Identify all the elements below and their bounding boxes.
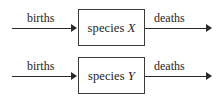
- inflow-label-births-y: births: [27, 59, 54, 74]
- population-flow-diagram: births speciesX deaths births speciesY d…: [0, 0, 222, 96]
- flow-row-species-y: births speciesY deaths: [0, 48, 222, 96]
- compartment-label-species-x: speciesX: [88, 20, 136, 36]
- compartment-box-species-y: speciesY: [78, 57, 145, 94]
- outflow-arrow-right-icon-x: [206, 24, 212, 32]
- inflow-arrow-right-icon-y: [71, 72, 77, 80]
- outflow-arrow-line-x: [145, 28, 211, 29]
- outflow-label-deaths-x: deaths: [154, 11, 185, 26]
- compartment-variable-y: Y: [125, 68, 135, 83]
- outflow-label-deaths-y: deaths: [154, 59, 185, 74]
- compartment-variable-x: X: [124, 20, 135, 35]
- compartment-word-x: species: [88, 21, 125, 35]
- outflow-arrow-line-y: [145, 76, 211, 77]
- inflow-arrow-line-y: [12, 76, 76, 77]
- outflow-arrow-right-icon-y: [206, 72, 212, 80]
- compartment-word-y: species: [88, 69, 125, 83]
- flow-row-species-x: births speciesX deaths: [0, 0, 222, 48]
- compartment-box-species-x: speciesX: [78, 9, 145, 46]
- inflow-arrow-right-icon-x: [71, 24, 77, 32]
- compartment-label-species-y: speciesY: [88, 68, 135, 84]
- inflow-label-births-x: births: [27, 11, 54, 26]
- inflow-arrow-line-x: [12, 28, 76, 29]
